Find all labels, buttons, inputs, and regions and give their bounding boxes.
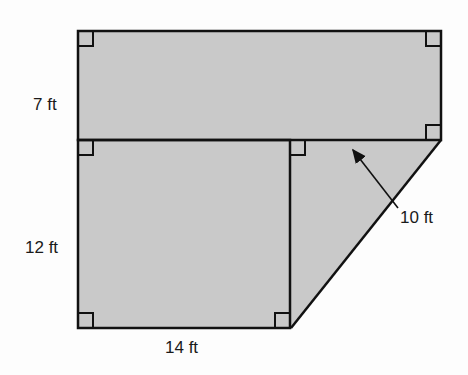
label-slant-height: 10 ft — [400, 208, 433, 228]
label-left-height: 12 ft — [25, 238, 58, 258]
figure-fill — [78, 31, 441, 328]
label-top-height: 7 ft — [33, 95, 57, 115]
composite-area-diagram: 7 ft 12 ft 14 ft 10 ft — [0, 0, 468, 375]
figure-svg — [0, 0, 468, 375]
label-bottom-width: 14 ft — [165, 338, 198, 358]
